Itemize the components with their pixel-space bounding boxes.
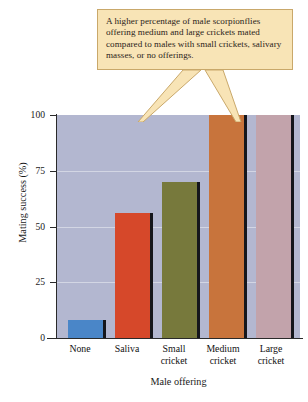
category-label-medium-cricket-line2: cricket (198, 355, 248, 367)
y-tick-label-0: 0 (19, 332, 45, 343)
bar-large-cricket (256, 115, 291, 338)
bar-shadow-large-cricket (291, 115, 294, 338)
scorpionfly-mating-success-figure: A higher percentage of male scorpionflie… (0, 0, 308, 402)
category-label-medium-cricket-line1: Medium (198, 343, 248, 355)
category-label-small-cricket-line2: cricket (151, 355, 197, 367)
annotation-callout-text: A higher percentage of male scorpionflie… (106, 16, 285, 62)
category-label-large-cricket-line1: Large (247, 343, 295, 355)
bar-body-large-cricket (256, 115, 291, 338)
y-tick-25 (50, 282, 56, 283)
category-label-saliva-line1: Saliva (104, 343, 150, 355)
y-tick-50 (50, 227, 56, 228)
y-tick-0 (50, 338, 56, 339)
bar-shadow-medium-cricket (244, 115, 247, 338)
bar-saliva (115, 213, 150, 338)
x-axis-title: Male offering (57, 376, 300, 387)
category-label-medium-cricket: Medium cricket (198, 343, 248, 366)
category-label-none: None (57, 343, 103, 355)
category-label-small-cricket-line1: Small (151, 343, 197, 355)
category-label-large-cricket: Large cricket (247, 343, 295, 366)
y-axis-line (56, 114, 57, 339)
bar-small-cricket (162, 182, 197, 338)
category-label-large-cricket-line2: cricket (247, 355, 295, 367)
bar-shadow-none (103, 320, 106, 338)
annotation-callout-box: A higher percentage of male scorpionflie… (97, 9, 293, 70)
bar-shadow-saliva (150, 213, 153, 338)
bar-medium-cricket (209, 115, 244, 338)
bar-body-small-cricket (162, 182, 197, 338)
y-tick-label-100: 100 (19, 109, 45, 120)
x-axis-line (47, 338, 303, 339)
bar-body-none (68, 320, 103, 338)
bar-body-saliva (115, 213, 150, 338)
y-tick-75 (50, 171, 56, 172)
category-label-none-line1: None (57, 343, 103, 355)
y-tick-100 (50, 115, 56, 116)
category-label-saliva: Saliva (104, 343, 150, 355)
plot-area (57, 115, 300, 338)
bar-shadow-small-cricket (197, 182, 200, 338)
y-axis-title: Mating success (%) (17, 148, 28, 258)
y-tick-label-25: 25 (19, 276, 45, 287)
bar-body-medium-cricket (209, 115, 244, 338)
category-label-small-cricket: Small cricket (151, 343, 197, 366)
bar-none (68, 320, 103, 338)
